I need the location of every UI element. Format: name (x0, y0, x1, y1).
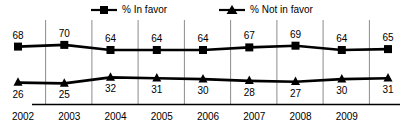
data-point-label: 64 (329, 33, 355, 44)
x-axis-tick-label: 2005 (142, 111, 182, 123)
data-point-marker[interactable] (292, 42, 300, 50)
x-axis-tick-label: 2003 (49, 111, 89, 123)
data-point-label: 31 (144, 84, 170, 95)
data-point-label: 31 (375, 84, 401, 95)
line-chart: % In favor % Not in favor 68706464646769… (0, 0, 404, 133)
data-point-label: 64 (98, 33, 124, 44)
data-point-label: 30 (329, 85, 355, 96)
data-point-marker[interactable] (245, 43, 253, 51)
data-point-label: 64 (144, 33, 170, 44)
data-point-label: 70 (51, 28, 77, 39)
data-point-label: 69 (283, 29, 309, 40)
x-axis-tick-label: 2007 (234, 111, 274, 123)
data-point-marker[interactable] (384, 45, 392, 53)
data-point-marker[interactable] (60, 41, 68, 49)
data-point-label: 32 (98, 83, 124, 94)
x-axis-tick-label: 2008 (281, 111, 321, 123)
series-layer (14, 41, 393, 87)
data-point-marker[interactable] (107, 46, 115, 54)
data-point-label: 67 (236, 30, 262, 41)
x-axis-tick-label: 2004 (96, 111, 136, 123)
data-point-label: 68 (5, 30, 31, 41)
data-point-label: 26 (5, 89, 31, 100)
data-point-marker[interactable] (14, 43, 22, 51)
data-point-marker[interactable] (338, 46, 346, 54)
data-point-label: 30 (190, 85, 216, 96)
data-point-marker[interactable] (199, 46, 207, 54)
x-axis-tick-label: 2002 (3, 111, 43, 123)
x-axis-tick-label: 2009 (327, 111, 367, 123)
data-point-label: 65 (375, 32, 401, 43)
data-point-label: 25 (51, 89, 77, 100)
data-point-label: 28 (236, 87, 262, 98)
x-axis-tick-label: 2006 (188, 111, 228, 123)
data-point-marker[interactable] (153, 46, 161, 54)
data-point-label: 64 (190, 33, 216, 44)
data-point-label: 27 (283, 88, 309, 99)
